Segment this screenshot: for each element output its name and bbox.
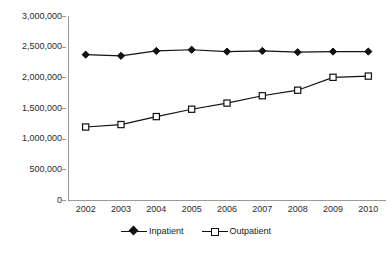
data-point-marker-square xyxy=(83,124,89,130)
data-point-marker-diamond xyxy=(294,49,301,56)
data-point-marker-square xyxy=(365,73,371,79)
chart-legend: Inpatient Outpatient xyxy=(0,226,392,236)
data-point-marker-diamond xyxy=(117,52,124,59)
x-tick-label: 2003 xyxy=(111,204,131,214)
data-point-marker-diamond xyxy=(259,47,266,54)
line-chart: 0500,0001,000,0001,500,0002,000,0002,500… xyxy=(0,0,392,255)
open-square-marker-icon xyxy=(202,226,228,236)
data-point-marker-square xyxy=(118,121,124,127)
data-point-marker-diamond xyxy=(329,48,336,55)
filled-diamond-marker-icon xyxy=(121,226,147,236)
x-tick-label: 2010 xyxy=(358,204,378,214)
data-point-marker-diamond xyxy=(153,47,160,54)
legend-label-outpatient: Outpatient xyxy=(230,226,272,236)
data-point-marker-diamond xyxy=(223,48,230,55)
data-point-marker-square xyxy=(259,93,265,99)
x-tick-label: 2007 xyxy=(252,204,272,214)
x-tick-label: 2009 xyxy=(323,204,343,214)
data-point-marker-diamond xyxy=(188,46,195,53)
data-point-marker-square xyxy=(295,87,301,93)
data-point-marker-diamond xyxy=(82,51,89,58)
data-point-marker-square xyxy=(189,106,195,112)
data-point-marker-diamond xyxy=(365,48,372,55)
legend-item-outpatient[interactable]: Outpatient xyxy=(202,226,272,236)
x-axis-labels: 200220032004200520062007200820092010 xyxy=(68,204,386,218)
data-point-marker-square xyxy=(153,113,159,119)
x-tick-label: 2008 xyxy=(288,204,308,214)
data-point-marker-square xyxy=(330,74,336,80)
legend-label-inpatient: Inpatient xyxy=(149,226,184,236)
data-point-marker-square xyxy=(224,100,230,106)
x-tick-label: 2006 xyxy=(217,204,237,214)
x-tick-label: 2005 xyxy=(182,204,202,214)
x-tick-label: 2002 xyxy=(76,204,96,214)
x-tick-label: 2004 xyxy=(146,204,166,214)
legend-item-inpatient[interactable]: Inpatient xyxy=(121,226,184,236)
